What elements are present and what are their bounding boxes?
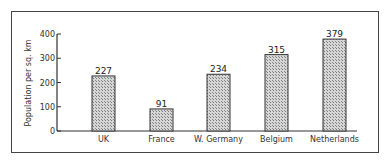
bar-group: 227UK: [92, 66, 115, 144]
x-category-label: UK: [98, 135, 110, 144]
bar-group: 315Belgium: [260, 45, 293, 144]
bar: [265, 55, 288, 131]
bar: [323, 39, 346, 131]
y-axis-label: Population per sq. km: [24, 39, 33, 126]
y-tick-label: 100: [40, 103, 55, 112]
y-tick-label: 200: [40, 79, 55, 88]
bar: [92, 76, 115, 131]
bar-chart: 0100200300400 227UK91France234W. Germany…: [0, 0, 388, 163]
bar-group: 379Netherlands: [310, 29, 359, 144]
bar-group: 91France: [148, 99, 175, 144]
y-axis: 0100200300400: [40, 30, 357, 136]
bar-value-label: 234: [210, 64, 227, 74]
y-tick-label: 300: [40, 54, 55, 63]
bar-value-label: 379: [326, 29, 343, 39]
bar-value-label: 91: [156, 99, 167, 109]
bar-value-label: 315: [268, 45, 285, 55]
x-category-label: Belgium: [260, 135, 293, 144]
bar-value-label: 227: [95, 66, 112, 76]
y-tick-label: 0: [50, 127, 55, 136]
x-category-label: W. Germany: [194, 135, 243, 144]
bar: [150, 109, 173, 131]
x-category-label: France: [148, 135, 175, 144]
bar: [207, 74, 230, 131]
bar-group: 234W. Germany: [194, 64, 243, 144]
bars: 227UK91France234W. Germany315Belgium379N…: [92, 29, 359, 144]
y-tick-label: 400: [40, 30, 55, 39]
x-category-label: Netherlands: [310, 135, 359, 144]
